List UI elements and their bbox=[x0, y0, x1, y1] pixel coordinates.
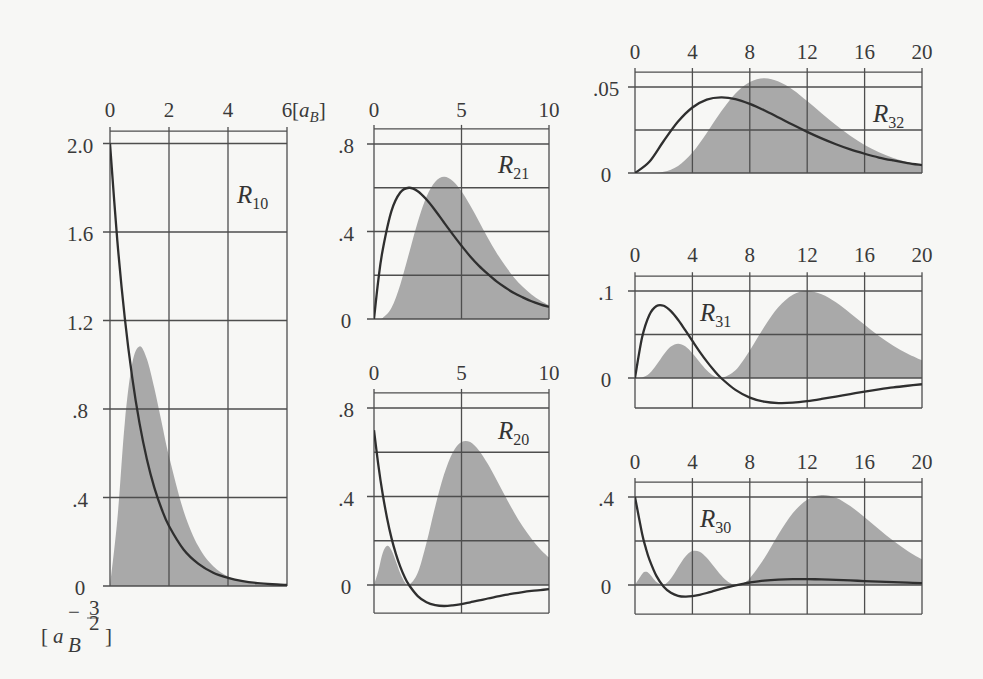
y-tick-label: .4 bbox=[338, 222, 354, 246]
y-tick-label: .8 bbox=[338, 398, 354, 422]
x-unit-close: ] bbox=[319, 98, 326, 122]
x-tick-label: 20 bbox=[912, 243, 933, 267]
y-tick-label: .4 bbox=[338, 487, 354, 511]
x-tick-label: 8 bbox=[745, 40, 756, 64]
x-tick-label: 4 bbox=[687, 40, 698, 64]
x-tick-label: 20 bbox=[912, 450, 933, 474]
y-tick-label: 0 bbox=[341, 575, 352, 599]
y-tick-label: .8 bbox=[338, 134, 354, 158]
panel-label-main: R bbox=[497, 417, 513, 444]
y-tick-label: 0 bbox=[341, 309, 352, 333]
x-tick-label: 0 bbox=[630, 243, 641, 267]
x-tick-label: 8 bbox=[745, 450, 756, 474]
y-tick-label: 0 bbox=[601, 163, 612, 187]
y-tick-label: .8 bbox=[72, 399, 88, 423]
x-tick-label: 12 bbox=[797, 40, 818, 64]
x-tick-label: 2 bbox=[164, 98, 175, 122]
panel-label-subscript: 21 bbox=[513, 165, 529, 182]
y-tick-label: 2.0 bbox=[67, 134, 93, 158]
panel-label-main: R bbox=[236, 181, 252, 208]
y-unit-sub: B bbox=[68, 633, 81, 657]
x-tick-label: 0 bbox=[630, 450, 641, 474]
panel-label-main: R bbox=[872, 100, 888, 127]
y-tick-label: 1.6 bbox=[67, 222, 93, 246]
y-tick-label: 1.2 bbox=[67, 311, 93, 335]
x-tick-label: 0 bbox=[369, 361, 380, 385]
x-tick-label: 5 bbox=[456, 98, 467, 122]
x-unit-base: a bbox=[299, 98, 310, 122]
panel-label-main: R bbox=[699, 299, 715, 326]
panel-label-subscript: 31 bbox=[715, 313, 731, 330]
x-tick-label: 10 bbox=[539, 361, 560, 385]
y-unit-sup-denominator: 2 bbox=[89, 611, 100, 635]
panel-label-subscript: 30 bbox=[715, 519, 731, 536]
x-tick-label: 4 bbox=[687, 450, 698, 474]
y-unit-close: ] bbox=[105, 624, 112, 648]
x-tick-label: 5 bbox=[456, 361, 467, 385]
x-tick-label: 6 bbox=[282, 98, 293, 122]
x-tick-label: 16 bbox=[854, 450, 875, 474]
x-tick-label: 0 bbox=[630, 40, 641, 64]
panel-label-subscript: 32 bbox=[888, 114, 904, 131]
x-tick-label: 4 bbox=[223, 98, 234, 122]
x-tick-label: 16 bbox=[854, 40, 875, 64]
panel-label-main: R bbox=[497, 151, 513, 178]
y-tick-label: .4 bbox=[72, 488, 88, 512]
x-unit-sub: B bbox=[310, 109, 319, 125]
x-tick-label: 20 bbox=[912, 40, 933, 64]
y-tick-label: 0 bbox=[601, 368, 612, 392]
y-tick-label: .4 bbox=[598, 487, 614, 511]
x-unit-label: [aB] bbox=[292, 98, 326, 125]
x-tick-label: 10 bbox=[539, 98, 560, 122]
x-tick-label: 12 bbox=[797, 243, 818, 267]
panel-label-subscript: 10 bbox=[252, 195, 268, 212]
x-tick-label: 16 bbox=[854, 243, 875, 267]
radial-wavefunction-figure: 02460.4.81.21.62.0R10 05100.4.8R21 05100… bbox=[0, 0, 983, 679]
y-tick-label: .05 bbox=[593, 77, 619, 101]
y-tick-label: 0 bbox=[601, 575, 612, 599]
panel-label-main: R bbox=[699, 505, 715, 532]
panel-label-subscript: 20 bbox=[513, 431, 529, 448]
y-unit-sup-sign: − bbox=[68, 600, 80, 624]
x-tick-label: 8 bbox=[745, 243, 756, 267]
x-tick-label: 0 bbox=[369, 98, 380, 122]
x-tick-label: 4 bbox=[687, 243, 698, 267]
y-tick-label: 0 bbox=[75, 576, 86, 600]
x-tick-label: 0 bbox=[105, 98, 116, 122]
y-unit-open: [ bbox=[41, 624, 48, 648]
x-tick-label: 12 bbox=[797, 450, 818, 474]
y-tick-label: .1 bbox=[598, 281, 614, 305]
x-unit-open: [ bbox=[292, 98, 299, 122]
y-unit-base: a bbox=[53, 624, 64, 648]
